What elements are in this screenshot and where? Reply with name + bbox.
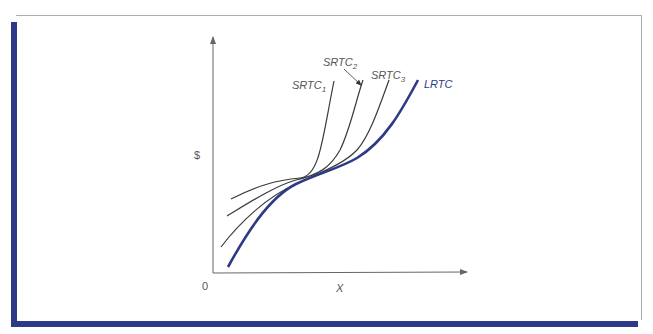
lrtc-curve bbox=[228, 80, 418, 267]
origin-label: 0 bbox=[202, 280, 208, 292]
srtc1-curve bbox=[231, 81, 334, 199]
cost-curves-diagram: $ 0 X SRTC1 SRTC2 SRTC3 LRTC bbox=[0, 0, 653, 334]
lrtc-label: LRTC bbox=[424, 78, 453, 90]
x-axis bbox=[213, 272, 467, 273]
x-axis-label: X bbox=[335, 282, 344, 294]
y-axis-label: $ bbox=[194, 149, 200, 161]
srtc1-label: SRTC1 bbox=[292, 79, 326, 94]
srtc2-label-pointer bbox=[344, 69, 361, 85]
srtc2-label: SRTC2 bbox=[323, 56, 358, 71]
srtc2-curve bbox=[227, 80, 363, 216]
srtc3-curve bbox=[221, 80, 389, 247]
